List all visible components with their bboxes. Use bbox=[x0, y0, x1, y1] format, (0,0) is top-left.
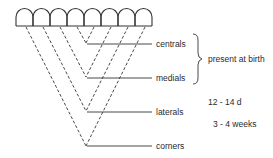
present-at-birth-label: present at birth bbox=[208, 54, 265, 64]
tooth-label-corners: corners bbox=[156, 141, 184, 151]
timing-laterals: 12 - 14 d bbox=[208, 97, 242, 107]
incisor-arches bbox=[16, 9, 152, 27]
tooth-label-centrals: centrals bbox=[156, 39, 186, 49]
curly-bracket bbox=[193, 34, 202, 84]
timing-corners: 3 - 4 weeks bbox=[213, 119, 256, 129]
leader-lines bbox=[87, 44, 152, 146]
tooth-label-laterals: laterals bbox=[156, 107, 183, 117]
tooth-label-medials: medials bbox=[156, 73, 185, 83]
eruption-diagram bbox=[0, 0, 273, 158]
dashed-connectors bbox=[26, 27, 145, 146]
